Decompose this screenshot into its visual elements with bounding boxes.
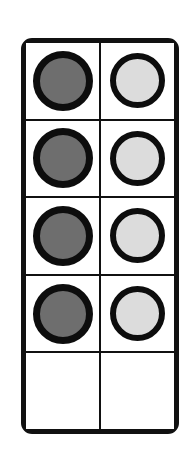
frame-cell[interactable] [26, 43, 101, 119]
ten-frame-grid [21, 38, 179, 434]
counter-token[interactable] [33, 284, 93, 344]
frame-row [26, 353, 174, 429]
diagram-canvas [0, 0, 191, 462]
frame-row [26, 121, 174, 199]
counter-token[interactable] [110, 286, 165, 341]
frame-cell[interactable] [101, 43, 174, 119]
frame-cell[interactable] [26, 121, 101, 197]
counter-token[interactable] [110, 208, 165, 263]
frame-row [26, 276, 174, 354]
frame-cell[interactable] [101, 276, 174, 352]
frame-row [26, 43, 174, 121]
frame-cell-empty[interactable] [101, 353, 174, 429]
frame-cell[interactable] [101, 198, 174, 274]
counter-token[interactable] [110, 131, 165, 186]
frame-cell-empty[interactable] [26, 353, 101, 429]
frame-cell[interactable] [26, 198, 101, 274]
frame-cell[interactable] [26, 276, 101, 352]
counter-token[interactable] [33, 51, 93, 111]
counter-token[interactable] [33, 206, 93, 266]
counter-token[interactable] [33, 128, 93, 188]
counter-token[interactable] [110, 53, 165, 108]
frame-row [26, 198, 174, 276]
frame-cell[interactable] [101, 121, 174, 197]
